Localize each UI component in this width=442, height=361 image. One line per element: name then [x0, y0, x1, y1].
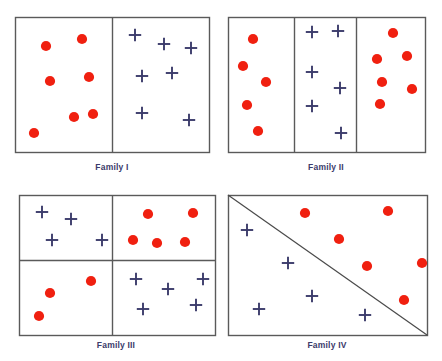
dot-marker [238, 61, 248, 71]
dot-marker [383, 206, 393, 216]
dot-marker [248, 34, 258, 44]
panel-label-family-1: Family I [62, 162, 162, 172]
dot-marker [69, 112, 79, 122]
dot-marker [45, 288, 55, 298]
dot-marker [242, 100, 252, 110]
panels-svg [0, 0, 442, 361]
dot-marker [84, 72, 94, 82]
dot-marker [180, 237, 190, 247]
dot-marker [152, 238, 162, 248]
dot-marker [86, 276, 96, 286]
panel-border-family-3 [20, 196, 216, 336]
dot-marker [375, 99, 385, 109]
panel-label-family-2: Family II [276, 162, 376, 172]
dot-marker [399, 295, 409, 305]
dot-marker [188, 208, 198, 218]
dot-marker [41, 41, 51, 51]
dot-marker [402, 51, 412, 61]
dot-marker [29, 128, 39, 138]
dot-marker [34, 311, 44, 321]
dot-marker [143, 209, 153, 219]
dot-marker [88, 109, 98, 119]
panel-family-2 [229, 17, 426, 153]
dot-marker [253, 126, 263, 136]
dot-marker [334, 234, 344, 244]
dot-marker [261, 77, 271, 87]
dot-marker [377, 77, 387, 87]
dot-marker [417, 258, 427, 268]
family-classification-figure: Family IFamily IIFamily IIIFamily IV [0, 0, 442, 361]
panel-family-1 [16, 17, 210, 153]
dot-marker [77, 34, 87, 44]
dot-marker [45, 76, 55, 86]
panel-label-family-4: Family IV [277, 340, 377, 350]
dot-marker [128, 235, 138, 245]
dot-marker [300, 208, 310, 218]
dot-marker [362, 261, 372, 271]
dot-marker [372, 54, 382, 64]
panel-family-4 [228, 195, 428, 336]
panel-family-3 [19, 195, 216, 336]
dot-marker [407, 84, 417, 94]
dot-marker [388, 28, 398, 38]
panel-label-family-3: Family III [66, 340, 166, 350]
